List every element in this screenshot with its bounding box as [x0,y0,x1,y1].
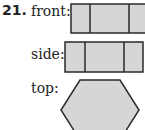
views-diagram [0,0,145,130]
front-view [71,4,145,33]
top-view-hexagon [61,80,139,130]
side-view [65,42,143,72]
